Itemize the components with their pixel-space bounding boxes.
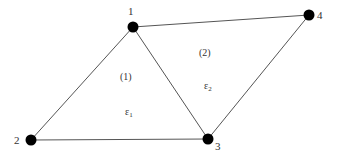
edge-4-3	[208, 15, 309, 139]
node-1	[128, 22, 139, 33]
node-2	[26, 135, 37, 146]
node-label-2: 2	[14, 134, 20, 146]
strain-label-2: ε2	[204, 80, 212, 93]
node-label-4: 4	[317, 9, 323, 21]
node-4	[304, 10, 315, 21]
element-label-1: (1)	[120, 71, 132, 83]
edge-1-3	[133, 27, 208, 139]
edge-1-4	[133, 15, 309, 27]
fem-mesh-diagram: 1 2 3 4 (1) (2) ε1 ε2	[0, 0, 340, 156]
node-label-1: 1	[128, 5, 134, 17]
strain-label-1: ε1	[125, 106, 133, 119]
node-label-3: 3	[215, 140, 221, 152]
mesh-svg: 1 2 3 4 (1) (2) ε1 ε2	[0, 0, 340, 156]
node-3	[203, 134, 214, 145]
edge-1-2	[31, 27, 133, 140]
element-label-2: (2)	[199, 47, 211, 59]
edge-2-3	[31, 139, 208, 140]
